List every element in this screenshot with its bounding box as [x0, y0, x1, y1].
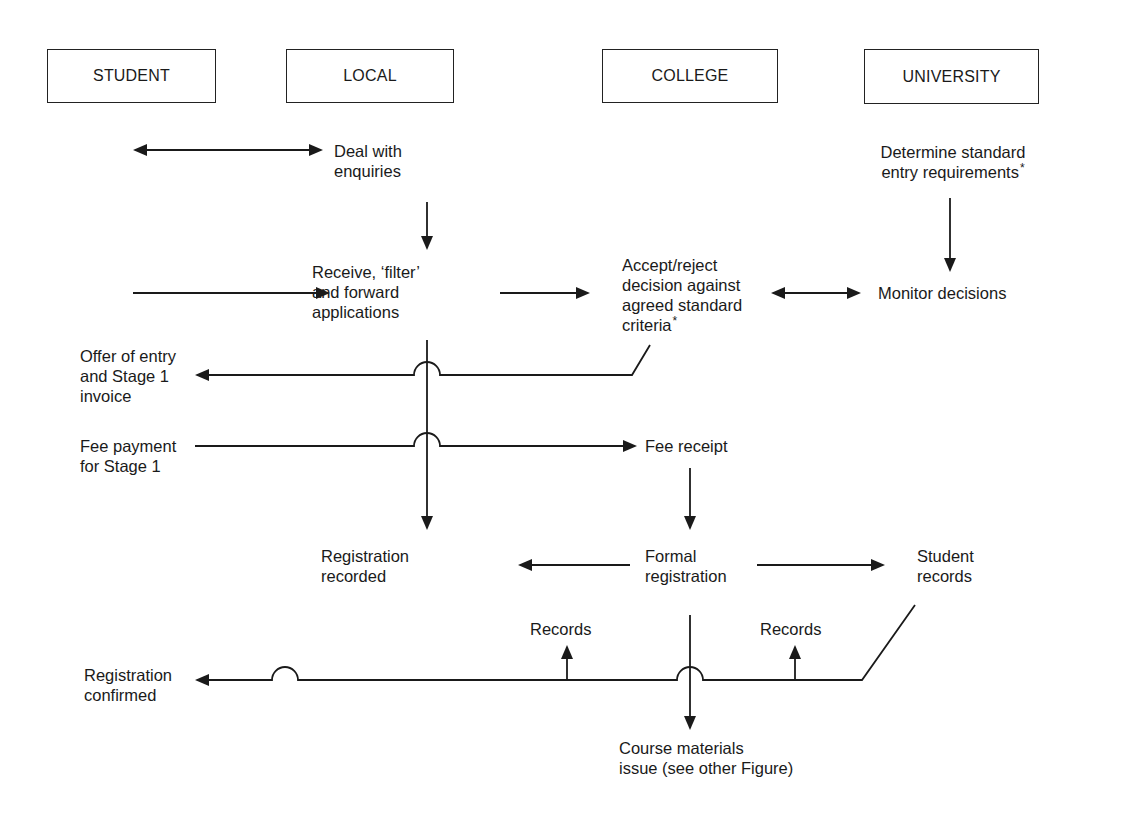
node-determine-requirements: Determine standard entry requirements* [868, 142, 1038, 184]
node-text: Records [760, 620, 821, 638]
node-text: Fee payment [80, 436, 176, 456]
node-text: Course materials [619, 738, 793, 758]
node-monitor-decisions: Monitor decisions [878, 283, 1006, 303]
node-text: Formal [645, 546, 727, 566]
edge-student-receive [133, 287, 330, 299]
column-college: COLLEGE [602, 49, 778, 103]
column-university-label: UNIVERSITY [902, 68, 1000, 86]
node-registration-recorded: Registration recorded [321, 546, 409, 586]
node-text: Accept/reject [622, 255, 742, 275]
node-course-materials: Course materials issue (see other Figure… [619, 738, 793, 778]
edge-formal-course-materials [684, 615, 696, 730]
node-text: issue (see other Figure) [619, 758, 793, 778]
edge-accept-offer [195, 345, 650, 381]
edge-bus-records-left [561, 645, 573, 680]
column-student: STUDENT [47, 49, 216, 103]
edge-receipt-formal [684, 468, 696, 530]
node-registration-confirmed: Registration confirmed [84, 665, 172, 705]
column-local-label: LOCAL [343, 67, 396, 85]
node-text: Records [530, 620, 591, 638]
node-fee-receipt: Fee receipt [645, 436, 728, 456]
node-records-left: Records [530, 619, 591, 639]
node-text: applications [312, 302, 420, 322]
node-text: confirmed [84, 685, 172, 705]
edge-receive-accept [500, 287, 590, 299]
node-text: invoice [80, 386, 176, 406]
node-student-records: Student records [917, 546, 974, 586]
edge-bus-records-right [789, 645, 801, 680]
column-local: LOCAL [286, 49, 454, 103]
edge-student-enquiries [133, 144, 323, 156]
node-text: Receive, ‘filter’ [312, 262, 420, 282]
edge-receive-registration-recorded [421, 340, 433, 530]
node-text: registration [645, 566, 727, 586]
edge-determine-monitor [944, 198, 956, 272]
node-fee-payment: Fee payment for Stage 1 [80, 436, 176, 476]
node-text: Student [917, 546, 974, 566]
node-text: recorded [321, 566, 409, 586]
node-text: enquiries [334, 161, 402, 181]
edge-formal-student-records [757, 559, 885, 571]
node-text: Monitor decisions [878, 284, 1006, 302]
node-text: Registration [84, 665, 172, 685]
node-accept-reject: Accept/reject decision against agreed st… [622, 255, 742, 337]
node-records-right: Records [760, 619, 821, 639]
node-text: decision against [622, 275, 742, 295]
node-text: agreed standard [622, 295, 742, 315]
edge-fee-payment-receipt [195, 433, 637, 452]
node-deal-enquiries: Deal with enquiries [334, 141, 402, 181]
node-text: for Stage 1 [80, 456, 176, 476]
column-student-label: STUDENT [93, 67, 170, 85]
footnote-mark: * [673, 314, 678, 328]
column-college-label: COLLEGE [652, 67, 729, 85]
footnote-mark: * [1020, 161, 1025, 175]
edge-formal-recorded [518, 559, 630, 571]
node-text: Deal with [334, 141, 402, 161]
node-text: and forward [312, 282, 420, 302]
node-text: Fee receipt [645, 437, 728, 455]
edge-records-confirmed [195, 605, 915, 686]
edge-enquiries-receive [421, 202, 433, 250]
column-university: UNIVERSITY [864, 49, 1039, 104]
node-text: and Stage 1 [80, 366, 176, 386]
node-formal-registration: Formal registration [645, 546, 727, 586]
node-text: Determine standard [868, 142, 1038, 162]
node-text: criteria [622, 316, 672, 334]
enrolment-flow-diagram: STUDENT LOCAL COLLEGE UNIVERSITY Deal wi… [0, 0, 1145, 828]
edge-accept-monitor [771, 287, 861, 299]
node-text: entry requirements [881, 163, 1019, 181]
node-text: records [917, 566, 974, 586]
node-text: Registration [321, 546, 409, 566]
node-receive-filter: Receive, ‘filter’ and forward applicatio… [312, 262, 420, 322]
node-offer-entry: Offer of entry and Stage 1 invoice [80, 346, 176, 406]
node-text: Offer of entry [80, 346, 176, 366]
